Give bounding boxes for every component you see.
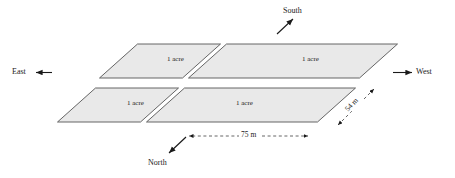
- plot-label-top-left: 1 acre: [167, 56, 184, 63]
- depth-dimension-line-lower: [338, 111, 352, 125]
- dimension-label-width: 75 m: [239, 131, 258, 139]
- plot-label-bottom-left: 1 acre: [127, 100, 144, 107]
- depth-dimension-line-upper: [364, 89, 374, 99]
- diagram-canvas: [0, 0, 455, 178]
- land-plot-diagram: 1 acre 1 acre 1 acre 1 acre South North …: [0, 0, 455, 178]
- direction-label-south: South: [283, 7, 302, 15]
- plot-label-top-right: 1 acre: [302, 56, 319, 63]
- north-arrow-icon: [169, 137, 186, 153]
- direction-label-east: East: [12, 68, 26, 76]
- south-arrow-icon: [277, 19, 293, 34]
- plot-label-bottom-right: 1 acre: [236, 100, 253, 107]
- direction-label-north: North: [148, 159, 167, 167]
- plot-top-right-shape: [189, 44, 398, 78]
- direction-label-west: West: [416, 68, 432, 76]
